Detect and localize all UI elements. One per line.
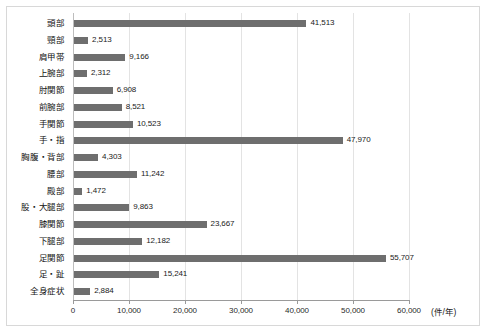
- bar: [74, 37, 88, 44]
- bar-row: 頭部41,513: [7, 15, 479, 32]
- bar-row: 上腕部2,312: [7, 65, 479, 82]
- plot-area: (件/年) 010,00020,00030,00040,00050,00060,…: [7, 7, 479, 325]
- x-axis-tick-label: 40,000: [285, 306, 309, 315]
- bar-row: 膝関節23,667: [7, 216, 479, 233]
- bar-value-label: 15,241: [163, 266, 187, 283]
- x-axis-tick-label: 10,000: [117, 306, 141, 315]
- category-label: 頸部: [0, 32, 65, 49]
- x-axis-tick: [241, 300, 242, 304]
- bar-row: 殿部1,472: [7, 183, 479, 200]
- bar: [74, 121, 133, 128]
- x-axis-tick: [409, 300, 410, 304]
- category-label: 全身症状: [0, 283, 65, 300]
- bar-value-label: 2,513: [92, 32, 112, 49]
- bar: [74, 70, 87, 77]
- x-axis-tick: [353, 300, 354, 304]
- bar-value-label: 8,521: [126, 99, 146, 116]
- x-axis-tick-label: 20,000: [173, 306, 197, 315]
- bar: [74, 255, 386, 262]
- bar-row: 前腕部8,521: [7, 99, 479, 116]
- bar-value-label: 12,182: [146, 233, 170, 250]
- category-label: 足関節: [0, 250, 65, 267]
- bar: [74, 288, 90, 295]
- category-label: 腰部: [0, 166, 65, 183]
- bar-row: 手・指47,970: [7, 132, 479, 149]
- category-label: 下腿部: [0, 233, 65, 250]
- bar-row: 胸腹・背部4,303: [7, 149, 479, 166]
- x-axis-tick: [73, 300, 74, 304]
- bar-row: 肩甲帯9,166: [7, 49, 479, 66]
- bar: [74, 238, 142, 245]
- bar: [74, 204, 129, 211]
- category-label: 上腕部: [0, 65, 65, 82]
- bar: [74, 104, 122, 111]
- category-label: 股・大腿部: [0, 199, 65, 216]
- category-label: 殿部: [0, 183, 65, 200]
- bar-row: 手関節10,523: [7, 116, 479, 133]
- bar: [74, 188, 82, 195]
- x-axis-tick: [185, 300, 186, 304]
- category-label: 肘関節: [0, 82, 65, 99]
- bar: [74, 171, 137, 178]
- category-label: 頭部: [0, 15, 65, 32]
- bar-value-label: 4,303: [102, 149, 122, 166]
- category-label: 手関節: [0, 116, 65, 133]
- bar-value-label: 41,513: [310, 15, 334, 32]
- bar-value-label: 9,863: [133, 199, 153, 216]
- bar-row: 足関節55,707: [7, 250, 479, 267]
- bar-value-label: 6,908: [117, 82, 137, 99]
- bar-value-label: 47,970: [347, 132, 371, 149]
- bar-value-label: 55,707: [390, 250, 414, 267]
- bar-row: 肘関節6,908: [7, 82, 479, 99]
- bar-row: 股・大腿部9,863: [7, 199, 479, 216]
- category-label: 胸腹・背部: [0, 149, 65, 166]
- x-axis-unit-label: (件/年): [431, 305, 456, 317]
- bar-row: 腰部11,242: [7, 166, 479, 183]
- bar: [74, 54, 125, 61]
- bar: [74, 137, 343, 144]
- bar-value-label: 23,667: [211, 216, 235, 233]
- bar: [74, 154, 98, 161]
- x-axis-tick: [297, 300, 298, 304]
- x-axis-tick-label: 30,000: [229, 306, 253, 315]
- category-label: 膝関節: [0, 216, 65, 233]
- x-axis-tick: [129, 300, 130, 304]
- category-label: 足・趾: [0, 266, 65, 283]
- bar-value-label: 1,472: [86, 183, 106, 200]
- bar-row: 下腿部12,182: [7, 233, 479, 250]
- bar-value-label: 10,523: [137, 116, 161, 133]
- category-label: 手・指: [0, 132, 65, 149]
- bar: [74, 20, 306, 27]
- bar-row: 全身症状2,884: [7, 283, 479, 300]
- bar-value-label: 9,166: [129, 49, 149, 66]
- bar-row: 頸部2,513: [7, 32, 479, 49]
- x-axis-tick-label: 0: [71, 306, 75, 315]
- category-label: 前腕部: [0, 99, 65, 116]
- bar: [74, 221, 207, 228]
- bar-value-label: 2,312: [91, 65, 111, 82]
- bar: [74, 271, 159, 278]
- bar-row: 足・趾15,241: [7, 266, 479, 283]
- x-axis-tick-label: 50,000: [341, 306, 365, 315]
- bar-value-label: 2,884: [94, 283, 114, 300]
- category-label: 肩甲帯: [0, 49, 65, 66]
- bar-value-label: 11,242: [141, 166, 164, 183]
- chart-figure: (件/年) 010,00020,00030,00040,00050,00060,…: [6, 6, 480, 326]
- x-axis-tick-label: 60,000: [397, 306, 421, 315]
- bar: [74, 87, 113, 94]
